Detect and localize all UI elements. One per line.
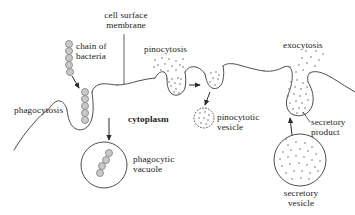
cell-surface-membrane	[14, 64, 355, 150]
exocytosis-released-dots	[289, 50, 324, 74]
arrow-bacteria-to-membrane	[72, 76, 79, 88]
secretory-vesicle	[274, 134, 326, 186]
phagocytic-vacuole	[81, 142, 127, 188]
chain-of-bacteria-outside	[66, 41, 74, 76]
cell-transport-diagram: cell surface membrane chain of bacteria …	[0, 0, 355, 215]
pinocytotic-vesicle	[194, 108, 214, 128]
label-pinocytosis: pinocytosis	[144, 44, 187, 54]
label-chain-of-bacteria: chain of bacteria	[76, 41, 128, 62]
pinching-vesicle-dots	[209, 71, 220, 86]
arrow-droplet-to-vesicle	[205, 92, 210, 105]
arrow-secretory-vesicle-to-membrane	[290, 118, 292, 135]
label-exocytosis: exocytosis	[283, 40, 323, 50]
label-pinocytotic-vesicle: pinocytotic vesicle	[217, 112, 279, 133]
pinocytosis-pocket-dots	[168, 77, 182, 94]
label-cytoplasm: cytoplasm	[128, 114, 169, 124]
pinocytosis-external-dots	[153, 57, 184, 72]
label-phagocytosis: phagocytosis	[14, 105, 63, 115]
exocytosis-pocket-dots	[287, 79, 309, 114]
label-phagocytic-vacuole: phagocytic vacuole	[133, 154, 193, 175]
label-secretory-product: secretory product	[311, 117, 355, 138]
label-secretory-vesicle: secretory vesicle	[272, 188, 330, 209]
chain-of-bacteria-engulfed	[82, 89, 89, 124]
label-cell-surface-membrane: cell surface membrane	[90, 10, 162, 31]
